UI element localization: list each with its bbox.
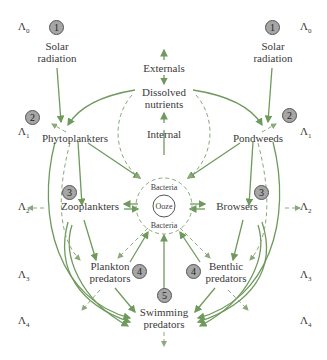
node-benthic-predators: Benthicpredators bbox=[198, 260, 254, 284]
arrow-browsers-benthic bbox=[233, 220, 243, 260]
badge-zoo: 3 bbox=[62, 185, 77, 200]
arrow-pond-bacteria bbox=[188, 143, 240, 178]
node-internal: Internal bbox=[134, 128, 194, 140]
level-right-1: Λ1 bbox=[300, 125, 311, 142]
node-zooplankters: Zooplankters bbox=[55, 200, 125, 212]
arrow-dissolved-phyto bbox=[68, 90, 135, 125]
level-left-2: Λ2 bbox=[18, 200, 29, 217]
arc-pond-swimming bbox=[198, 142, 280, 318]
node-pondweeds: Pondweeds bbox=[228, 132, 288, 144]
dashed-bact-plankton bbox=[118, 228, 148, 258]
arrow-benthic-bacteria bbox=[180, 232, 200, 262]
arrow-solar-pond bbox=[268, 68, 272, 122]
node-externals: Externals bbox=[134, 62, 194, 74]
badge-plankton-predators: 4 bbox=[132, 264, 147, 279]
level-right-0: Λ0 bbox=[300, 20, 311, 37]
level-left-0: Λ0 bbox=[18, 20, 29, 37]
level-right-3: Λ3 bbox=[300, 268, 311, 285]
level-left-3: Λ3 bbox=[18, 268, 29, 285]
arrow-zoo-plankton bbox=[84, 220, 96, 260]
level-right-2: Λ2 bbox=[300, 200, 311, 217]
node-solar-left: Solarradiation bbox=[32, 40, 82, 64]
arrow-phyto-zoo bbox=[78, 142, 82, 205]
node-browsers: Browsers bbox=[207, 200, 267, 212]
node-bacteria-bottom: Bacteria bbox=[144, 221, 184, 230]
dashed-pond-L1 bbox=[262, 124, 276, 132]
node-swimming-predators: Swimmingpredators bbox=[130, 306, 198, 330]
arrow-dissolved-pond bbox=[193, 90, 262, 125]
badge-swimming-predators: 5 bbox=[157, 288, 172, 303]
node-phytoplankters: Phytoplankters bbox=[35, 132, 115, 144]
arrow-phyto-bacteria bbox=[88, 143, 140, 178]
badge-pondweeds: 2 bbox=[282, 108, 297, 123]
level-left-4: Λ4 bbox=[18, 314, 29, 331]
dashed-phyto-L1 bbox=[52, 124, 66, 132]
arrow-benthic-swimming bbox=[195, 288, 215, 312]
arrow-solar-phyto bbox=[57, 68, 61, 122]
level-right-4: Λ4 bbox=[300, 314, 311, 331]
node-solar-right: Solarradiation bbox=[248, 40, 298, 64]
badge-phyto: 2 bbox=[25, 110, 40, 125]
node-bacteria-top: Bacteria bbox=[144, 183, 184, 192]
badge-browsers: 3 bbox=[254, 185, 269, 200]
arrow-pond-browsers bbox=[249, 142, 253, 205]
arrow-plankton-bacteria bbox=[130, 232, 148, 262]
node-dissolved-nutrients: Dissolvednutrients bbox=[129, 86, 199, 110]
node-ooze: Ooze bbox=[149, 202, 179, 211]
badge-solar-left: 1 bbox=[49, 20, 64, 35]
node-plankton-predators: Planktonpredators bbox=[82, 260, 138, 284]
level-left-1: Λ1 bbox=[18, 125, 29, 142]
badge-solar-right: 1 bbox=[265, 20, 280, 35]
